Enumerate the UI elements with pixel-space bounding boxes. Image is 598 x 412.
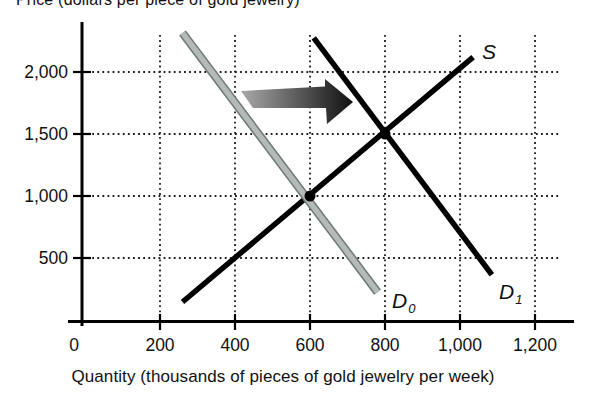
y-tick-label-1500: 1,500 (8, 124, 68, 144)
supply-curve-label-text: S (482, 40, 496, 63)
x-tick-label-0: 0 (69, 335, 79, 356)
x-tick-label-200: 200 (145, 335, 174, 356)
equilibrium-point-600-1000 (305, 191, 316, 202)
x-tick-label-1200: 1,200 (513, 335, 557, 356)
demand-shift-arrow (241, 79, 353, 124)
x-tick-label-1000: 1,000 (438, 335, 482, 356)
y-axis-title: Price (dollars per piece of gold jewelry… (16, 0, 300, 9)
equilibrium-point-800-1500 (380, 129, 391, 140)
y-tick-label-500: 500 (8, 248, 68, 268)
x-tick-label-600: 600 (295, 335, 324, 356)
supply-curve-label: S (482, 40, 496, 64)
y-tick-label-1000: 1,000 (8, 186, 68, 206)
demand-initial-curve-label: D0 (392, 289, 414, 313)
demand-initial-label-subscript: 0 (408, 301, 415, 316)
x-axis-title: Quantity (thousands of pieces of gold je… (0, 367, 566, 387)
demand-new-label-text: D (499, 280, 514, 303)
x-tick-label-800: 800 (370, 335, 399, 356)
demand-new-curve-label: D1 (499, 280, 521, 304)
x-tick-label-400: 400 (220, 335, 249, 356)
demand-new-label-subscript: 1 (515, 292, 522, 307)
demand-initial-label-text: D (392, 289, 407, 312)
y-tick-label-2000: 2,000 (8, 62, 68, 82)
supply-demand-figure: Price (dollars per piece of gold jewelry… (0, 0, 598, 412)
